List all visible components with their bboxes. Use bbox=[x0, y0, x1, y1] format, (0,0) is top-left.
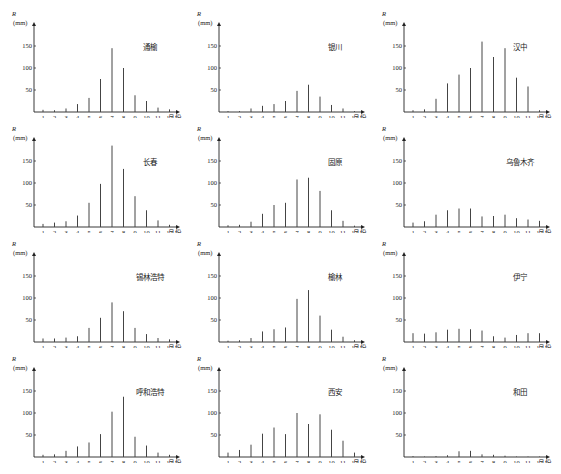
y-tick-label: 50 bbox=[396, 431, 403, 438]
y-tick-label: 100 bbox=[207, 179, 217, 186]
y-axis-symbol: R bbox=[381, 240, 386, 247]
y-axis-unit: (mm) bbox=[198, 19, 212, 27]
y-tick-label: 100 bbox=[207, 294, 217, 301]
x-tick-label: 11 bbox=[525, 459, 531, 463]
y-axis-symbol: R bbox=[196, 125, 201, 132]
chart-panel: R(mm)50100150123456789101112月份乌鲁木齐 bbox=[370, 115, 557, 233]
x-tick-label: 3 bbox=[249, 459, 252, 463]
station-name: 西安 bbox=[328, 387, 343, 397]
x-tick-label: 11 bbox=[155, 459, 161, 463]
chart-panel: R(mm)50100150123456789101112月份西安 bbox=[185, 345, 372, 463]
y-axis-arrow-icon bbox=[402, 252, 406, 256]
x-tick-label: 5 bbox=[87, 459, 90, 463]
y-axis-symbol: R bbox=[11, 240, 16, 247]
y-tick-label: 50 bbox=[26, 86, 33, 93]
chart-svg: R(mm)50100150123456789101112月份锡林浩特 bbox=[0, 230, 187, 348]
y-tick-label: 50 bbox=[211, 201, 218, 208]
x-tick-label: 6 bbox=[284, 459, 288, 463]
y-tick-label: 100 bbox=[22, 179, 32, 186]
y-axis-symbol: R bbox=[11, 10, 16, 17]
x-tick-label: 8 bbox=[492, 459, 495, 463]
x-tick-label: 1 bbox=[226, 459, 229, 463]
chart-panel: R(mm)50100150123456789101112月份和田 bbox=[370, 345, 557, 463]
station-name: 锡林浩特 bbox=[136, 272, 165, 282]
x-tick-label: 4 bbox=[76, 459, 80, 463]
y-tick-label: 150 bbox=[22, 272, 32, 279]
chart-panel: R(mm)50100150123456789101112月份呼和浩特 bbox=[0, 345, 187, 463]
y-tick-label: 150 bbox=[207, 42, 217, 49]
y-tick-label: 150 bbox=[207, 157, 217, 164]
chart-svg: R(mm)50100150123456789101112月份呼和浩特 bbox=[0, 345, 187, 463]
station-name: 汉中 bbox=[513, 42, 527, 52]
y-tick-label: 150 bbox=[22, 387, 32, 394]
y-axis-unit: (mm) bbox=[383, 19, 397, 27]
y-axis-unit: (mm) bbox=[383, 249, 397, 257]
x-tick-label: 3 bbox=[64, 459, 67, 463]
x-tick-label: 9 bbox=[318, 459, 321, 463]
y-axis-arrow-icon bbox=[402, 137, 406, 141]
y-axis-unit: (mm) bbox=[13, 134, 27, 142]
y-axis-arrow-icon bbox=[32, 367, 36, 371]
y-axis-arrow-icon bbox=[402, 367, 406, 371]
chart-panel: R(mm)50100150123456789101112月份锡林浩特 bbox=[0, 230, 187, 348]
y-tick-label: 50 bbox=[26, 201, 33, 208]
y-axis-unit: (mm) bbox=[198, 249, 212, 257]
y-axis-arrow-icon bbox=[32, 137, 36, 141]
y-tick-label: 100 bbox=[207, 64, 217, 71]
chart-panel: R(mm)50100150123456789101112月份通榆 bbox=[0, 0, 187, 118]
x-axis-unit: 月份 bbox=[538, 458, 552, 463]
chart-panel: R(mm)50100150123456789101112月份长春 bbox=[0, 115, 187, 233]
x-tick-label: 5 bbox=[272, 459, 275, 463]
y-axis-unit: (mm) bbox=[383, 364, 397, 372]
x-tick-label: 7 bbox=[295, 459, 299, 463]
x-tick-label: 7 bbox=[110, 459, 114, 463]
x-tick-label: 7 bbox=[480, 459, 484, 463]
y-axis-arrow-icon bbox=[32, 22, 36, 26]
station-name: 呼和浩特 bbox=[136, 387, 165, 397]
y-axis-symbol: R bbox=[196, 355, 201, 362]
x-tick-label: 6 bbox=[469, 459, 473, 463]
y-axis-symbol: R bbox=[381, 125, 386, 132]
y-axis-symbol: R bbox=[196, 240, 201, 247]
chart-panel: R(mm)50100150123456789101112月份汉中 bbox=[370, 0, 557, 118]
y-tick-label: 50 bbox=[396, 201, 403, 208]
y-axis-unit: (mm) bbox=[13, 249, 27, 257]
x-tick-label: 10 bbox=[143, 459, 150, 463]
x-tick-label: 9 bbox=[133, 459, 136, 463]
station-name: 银川 bbox=[328, 43, 342, 52]
station-name: 通榆 bbox=[143, 42, 158, 52]
y-tick-label: 50 bbox=[211, 86, 218, 93]
x-tick-label: 10 bbox=[513, 459, 520, 463]
y-tick-label: 100 bbox=[22, 294, 32, 301]
y-tick-label: 150 bbox=[22, 42, 32, 49]
station-name: 固原 bbox=[328, 158, 343, 167]
chart-svg: R(mm)50100150123456789101112月份固原 bbox=[185, 115, 372, 233]
y-axis-arrow-icon bbox=[32, 252, 36, 256]
y-axis-unit: (mm) bbox=[198, 134, 212, 142]
chart-panel: R(mm)50100150123456789101112月份榆林 bbox=[185, 230, 372, 348]
y-axis-unit: (mm) bbox=[13, 19, 27, 27]
x-tick-label: 8 bbox=[307, 459, 310, 463]
x-tick-label: 1 bbox=[41, 459, 44, 463]
y-tick-label: 150 bbox=[207, 272, 217, 279]
y-tick-label: 50 bbox=[396, 86, 403, 93]
y-axis-arrow-icon bbox=[217, 367, 221, 371]
x-tick-label: 11 bbox=[340, 459, 346, 463]
y-tick-label: 100 bbox=[207, 409, 217, 416]
chart-svg: R(mm)50100150123456789101112月份通榆 bbox=[0, 0, 187, 118]
x-axis-unit: 月份 bbox=[168, 458, 182, 463]
y-axis-symbol: R bbox=[381, 355, 386, 362]
y-axis-symbol: R bbox=[381, 10, 386, 17]
station-name: 榆林 bbox=[328, 272, 343, 282]
x-tick-label: 8 bbox=[122, 459, 125, 463]
y-axis-symbol: R bbox=[196, 10, 201, 17]
y-axis-arrow-icon bbox=[217, 137, 221, 141]
x-axis-unit: 月份 bbox=[353, 458, 367, 463]
y-axis-arrow-icon bbox=[217, 252, 221, 256]
y-tick-label: 150 bbox=[392, 272, 402, 279]
x-tick-label: 4 bbox=[261, 459, 265, 463]
x-tick-label: 4 bbox=[446, 459, 450, 463]
y-tick-label: 50 bbox=[211, 316, 218, 323]
x-tick-label: 2 bbox=[53, 459, 56, 463]
chart-panel: R(mm)50100150123456789101112月份银川 bbox=[185, 0, 372, 118]
